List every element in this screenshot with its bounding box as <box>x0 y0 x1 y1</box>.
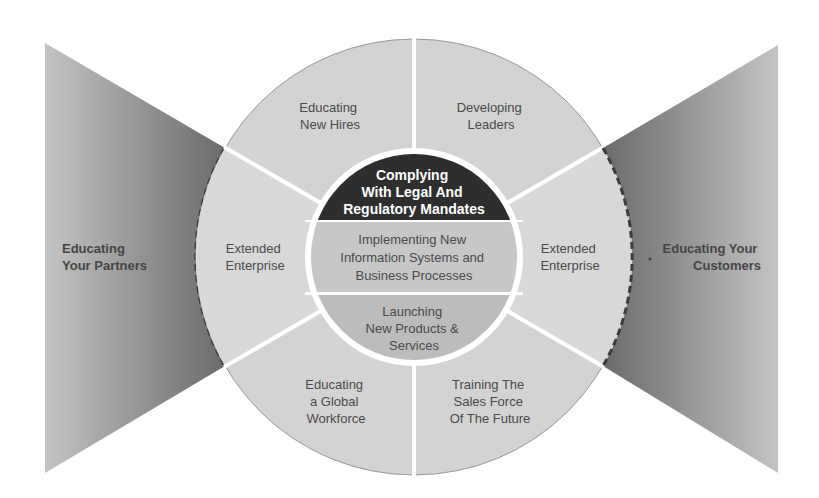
wing-right-dot <box>649 258 652 261</box>
segment-bottom-left-label: Educating a Global Workforce <box>305 377 366 426</box>
core-middle-label: Implementing New Information Systems and… <box>340 232 487 283</box>
learning-wheel-diagram: Educating New Hires Developing Leaders E… <box>0 0 819 498</box>
segment-bottom-right-label: Training The Sales Force Of The Future <box>450 377 531 426</box>
